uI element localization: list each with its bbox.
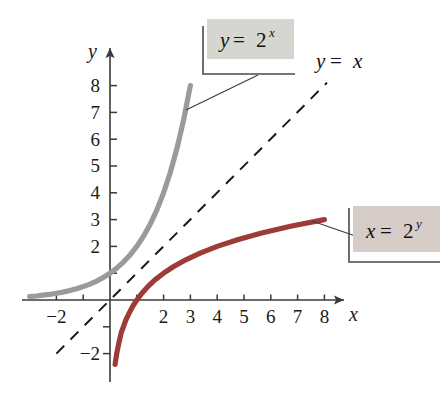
callout-x-equals-2y[interactable]: x = 2 y [312, 206, 440, 262]
x-tick-label-2: 2 [159, 306, 169, 327]
curve-x-equals-2-to-the-y [115, 220, 324, 365]
x-tick-label-neg2: −2 [46, 306, 66, 327]
callout-red-base: x [365, 219, 376, 243]
x-axis-labels: −2 2 3 4 5 6 7 8 [46, 306, 329, 327]
callout-gray-exponent: x [268, 25, 275, 40]
y-tick-label-neg2: −2 [80, 343, 100, 364]
callout-red-exponent: y [414, 216, 422, 231]
graph-svg: −2 2 3 4 5 6 7 8 8 7 6 5 4 3 2 −2 y x [0, 0, 447, 395]
x-tick-label-7: 7 [293, 306, 303, 327]
label-line-base: y [314, 49, 326, 73]
callout-gray-base: y [218, 28, 230, 52]
callout-y-equals-2x[interactable]: y = 2 x [186, 19, 295, 110]
y-tick-label-7: 7 [91, 102, 101, 123]
label-line-value: x [352, 49, 363, 73]
label-line-operator: = [330, 49, 342, 73]
x-tick-label-8: 8 [320, 306, 330, 327]
callout-gray-value: 2 [256, 28, 267, 52]
label-y-equals-x: y = x [314, 49, 363, 73]
x-tick-label-6: 6 [266, 306, 276, 327]
y-tick-label-4: 4 [91, 182, 101, 203]
y-tick-label-2: 2 [91, 236, 101, 257]
x-axis-label: x [348, 303, 358, 325]
y-tick-label-8: 8 [91, 75, 101, 96]
y-axis-label: y [86, 40, 97, 63]
callout-red-value: 2 [403, 219, 414, 243]
y-tick-label-6: 6 [91, 129, 101, 150]
x-tick-label-4: 4 [212, 306, 222, 327]
x-axis-ticks [56, 295, 324, 301]
axes-group [22, 48, 344, 382]
x-tick-label-3: 3 [186, 306, 196, 327]
x-tick-label-5: 5 [239, 306, 249, 327]
callout-leader-line-gray [186, 75, 258, 110]
y-tick-label-5: 5 [91, 155, 101, 176]
figure-canvas: −2 2 3 4 5 6 7 8 8 7 6 5 4 3 2 −2 y x [0, 0, 447, 395]
callout-red-operator: = [380, 219, 392, 243]
y-tick-label-3: 3 [91, 209, 101, 230]
callout-gray-operator: = [233, 28, 245, 52]
